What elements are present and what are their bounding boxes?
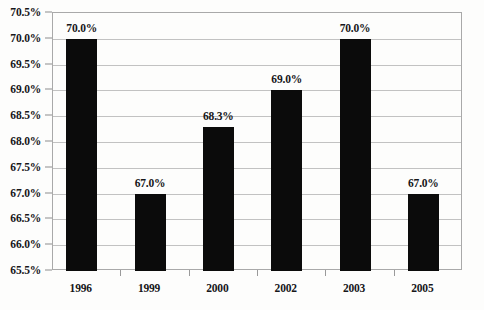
bar xyxy=(408,194,439,271)
y-tick-mark xyxy=(45,37,52,38)
x-tick-label: 2005 xyxy=(411,282,433,294)
y-tick-mark xyxy=(45,12,52,13)
y-tick-mark xyxy=(45,218,52,219)
bar xyxy=(135,194,166,271)
x-tick-mark xyxy=(257,270,258,276)
gridline xyxy=(53,245,461,246)
y-tick-label: 69.0% xyxy=(10,83,41,95)
y-axis: 70.5%70.0%69.5%69.0%68.5%68.0%67.5%67.0%… xyxy=(0,0,52,310)
x-tick-label: 1999 xyxy=(138,282,160,294)
x-tick-mark xyxy=(120,270,121,276)
x-tick-label: 1996 xyxy=(70,282,92,294)
x-tick-label: 2003 xyxy=(343,282,365,294)
y-tick-label: 66.5% xyxy=(10,212,41,224)
bar xyxy=(271,90,302,271)
y-tick-mark xyxy=(45,270,52,271)
y-tick-mark xyxy=(45,63,52,64)
bar-value-label: 70.0% xyxy=(340,22,371,34)
gridline xyxy=(53,194,461,195)
y-tick-label: 70.5% xyxy=(10,6,41,18)
bar xyxy=(340,39,371,271)
bar xyxy=(203,127,234,271)
bar xyxy=(66,39,97,271)
y-tick-mark xyxy=(45,141,52,142)
gridline xyxy=(53,116,461,117)
gridline xyxy=(53,168,461,169)
bar-value-label: 67.0% xyxy=(135,177,166,189)
x-tick-mark xyxy=(394,270,395,276)
bar-value-label: 68.3% xyxy=(203,110,234,122)
gridline xyxy=(53,90,461,91)
x-axis: 199619992000200220032005 xyxy=(52,270,462,310)
gridline xyxy=(53,219,461,220)
x-tick-label: 2000 xyxy=(206,282,228,294)
y-tick-mark xyxy=(45,115,52,116)
bar-value-label: 67.0% xyxy=(408,177,439,189)
x-tick-mark xyxy=(189,270,190,276)
y-tick-label: 68.5% xyxy=(10,109,41,121)
y-tick-label: 67.0% xyxy=(10,187,41,199)
gridline xyxy=(53,39,461,40)
y-tick-label: 66.0% xyxy=(10,238,41,250)
y-tick-label: 69.5% xyxy=(10,58,41,70)
y-tick-mark xyxy=(45,166,52,167)
gridline xyxy=(53,142,461,143)
gridline xyxy=(53,65,461,66)
bar-value-label: 69.0% xyxy=(271,73,302,85)
plot-area: 70.0%67.0%68.3%69.0%70.0%67.0% xyxy=(52,12,462,270)
y-tick-label: 70.0% xyxy=(10,32,41,44)
y-tick-mark xyxy=(45,89,52,90)
y-tick-label: 65.5% xyxy=(10,264,41,276)
y-tick-mark xyxy=(45,244,52,245)
bar-value-label: 70.0% xyxy=(66,22,97,34)
x-tick-label: 2002 xyxy=(275,282,297,294)
y-tick-label: 68.0% xyxy=(10,135,41,147)
bar-chart: 70.5%70.0%69.5%69.0%68.5%68.0%67.5%67.0%… xyxy=(0,0,484,310)
x-tick-mark xyxy=(325,270,326,276)
y-tick-mark xyxy=(45,192,52,193)
y-tick-label: 67.5% xyxy=(10,161,41,173)
